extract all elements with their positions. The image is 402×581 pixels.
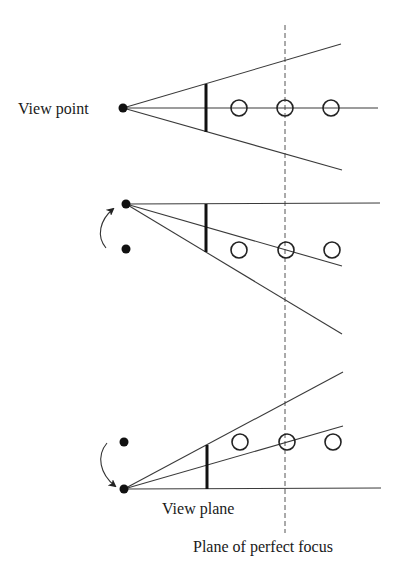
viewpoint-dot <box>120 485 129 494</box>
panel-original: View point <box>18 44 378 170</box>
original-viewpoint-dot <box>120 438 129 447</box>
stereo-viewpoint-diagram: View point View plane Plane of <box>0 0 402 581</box>
plane-of-focus-label: Plane of perfect focus <box>193 538 333 556</box>
view-point-label: View point <box>18 100 89 118</box>
panel-viewpoint-up <box>100 200 380 335</box>
curved-arrow-up-icon <box>100 209 113 248</box>
center-ray <box>124 426 343 489</box>
view-plane-label: View plane <box>162 500 234 518</box>
curved-arrow-down-icon <box>101 443 115 486</box>
frustum-lower-ray <box>124 488 381 489</box>
frustum-upper-ray <box>124 372 343 489</box>
object-circle <box>325 434 341 450</box>
frustum-upper-ray <box>126 203 380 204</box>
frustum-lower-ray <box>126 204 342 334</box>
panel-viewpoint-down: View plane <box>101 372 381 518</box>
viewpoint-dot <box>119 104 128 113</box>
object-circle <box>231 242 247 258</box>
original-viewpoint-dot <box>122 245 131 254</box>
object-circle <box>232 434 248 450</box>
frustum-lower-ray <box>123 108 342 170</box>
frustum-upper-ray <box>123 44 341 108</box>
object-circle <box>324 242 340 258</box>
viewpoint-dot <box>122 200 131 209</box>
